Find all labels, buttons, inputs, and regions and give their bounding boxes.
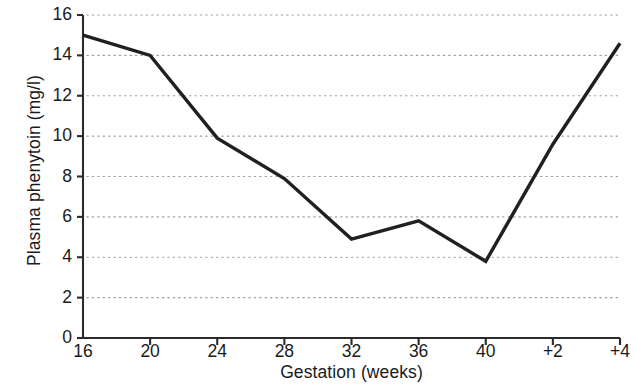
y-tick-label-text: 12 [38, 87, 72, 105]
y-tick-label-text: 6 [38, 208, 72, 226]
y-tick-label-text: 10 [38, 127, 72, 145]
data-line [83, 35, 620, 261]
x-tick-label-text: 20 [120, 343, 180, 361]
y-tick-label-text: 14 [38, 47, 72, 65]
y-tick-label-text: 4 [38, 249, 72, 267]
y-tick-label-text: 8 [38, 168, 72, 186]
x-tick-label-text: 32 [322, 343, 382, 361]
x-tick-label-text: 16 [53, 343, 113, 361]
x-tick-label-text: 24 [187, 343, 247, 361]
gridlines [87, 15, 620, 298]
x-tick-label-text: 36 [389, 343, 449, 361]
x-tick-label-text: +2 [523, 343, 583, 361]
x-tick-label-text: 40 [456, 343, 516, 361]
y-tick-label-text: 16 [38, 6, 72, 24]
x-tick-label-text: 28 [254, 343, 314, 361]
x-tick-label-text: +4 [590, 343, 635, 361]
y-tick-label-text: 2 [38, 289, 72, 307]
